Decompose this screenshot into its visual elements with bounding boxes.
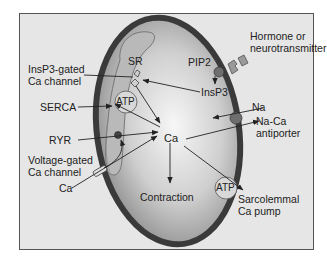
label-ca-center: Ca <box>164 132 178 144</box>
label-contraction: Contraction <box>140 191 194 203</box>
label-voltage-gated-channel: Voltage-gated Ca channel <box>28 154 93 178</box>
label-na-ca-antiporter: Na-Ca antiporter <box>256 115 300 139</box>
label-na: Na <box>252 101 265 113</box>
label-serca: SERCA <box>40 101 76 113</box>
label-insp3-gated-channel: InsP3-gated Ca channel <box>28 63 85 87</box>
label-sarcolemmal-pump: Sarcolemmal Ca pump <box>238 193 299 217</box>
label-ca-extracellular: Ca <box>59 182 72 194</box>
label-pip2: PIP2 <box>188 56 211 68</box>
label-insp3: InsP3 <box>201 86 228 98</box>
label-ryr: RYR <box>49 134 71 146</box>
ryr-channel-icon <box>115 132 122 139</box>
pip2-receptor-icon <box>214 67 224 77</box>
label-sr: SR <box>128 55 143 67</box>
label-sr-atp: ATP <box>116 96 135 108</box>
label-pump-atp: ATP <box>216 182 235 194</box>
label-hormone: Hormone or neurotransmitter <box>250 30 326 54</box>
calcium-signaling-diagram: Hormone or neurotransmitter PIP2 InsP3 I… <box>0 0 327 266</box>
hormone-molecule-icon <box>228 55 248 74</box>
